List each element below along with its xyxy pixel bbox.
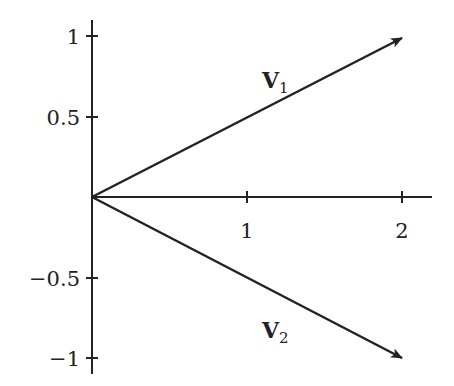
x-tick-label-2: 2	[395, 219, 408, 243]
y-tick-label-1: 1	[67, 25, 80, 49]
vector-v1-arrow	[92, 38, 402, 197]
vector-v2-label: V2	[261, 317, 289, 347]
x-tick-label-1: 1	[240, 219, 253, 243]
y-tick-label-neg-0.5: −0.5	[29, 267, 80, 291]
y-tick-label-0.5: 0.5	[47, 106, 80, 130]
y-tick-label-neg-1: −1	[49, 347, 80, 371]
vector-v1-label: V1	[261, 67, 289, 97]
vector-diagram: 1 0.5 −0.5 −1 1 2 V1 V2	[0, 0, 454, 386]
